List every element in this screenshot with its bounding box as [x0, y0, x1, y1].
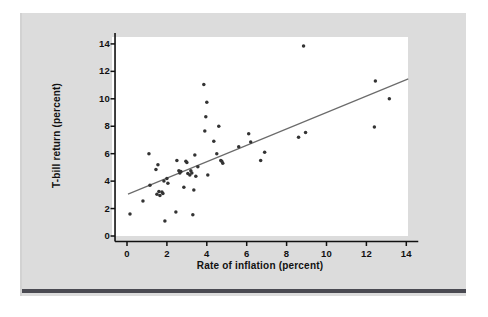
data-point: [163, 219, 167, 223]
data-point: [249, 140, 253, 144]
axis-ticks: [111, 44, 407, 246]
data-point: [190, 171, 194, 175]
y-tick-label: 0: [66, 230, 110, 241]
data-point: [179, 170, 183, 174]
y-tick-label: 6: [66, 148, 110, 159]
data-point: [304, 131, 308, 135]
y-tick-label: 12: [66, 65, 110, 76]
data-point: [221, 162, 225, 166]
data-point: [215, 152, 219, 156]
y-tick-label: 4: [66, 175, 110, 186]
y-tick-label: 8: [66, 120, 110, 131]
data-point: [205, 100, 209, 104]
data-points: [128, 44, 391, 222]
data-point: [247, 132, 251, 136]
x-tick-label: 14: [386, 248, 426, 259]
y-tick-label: 14: [66, 38, 110, 49]
x-tick-label: 6: [227, 248, 267, 259]
data-point: [212, 140, 216, 144]
data-point: [206, 173, 210, 177]
data-point: [191, 213, 195, 217]
data-point: [297, 135, 301, 139]
data-point: [302, 44, 306, 48]
data-point: [373, 125, 377, 128]
x-tick-label: 8: [267, 248, 307, 259]
data-point: [161, 192, 165, 196]
data-point: [156, 163, 160, 167]
data-point: [158, 194, 162, 198]
data-point: [204, 115, 208, 119]
data-point: [165, 177, 169, 181]
data-point: [141, 199, 145, 203]
data-point: [194, 175, 198, 179]
y-tick-label: 10: [66, 93, 110, 104]
x-tick-label: 12: [346, 248, 386, 259]
data-point: [192, 188, 196, 192]
y-tick-label: 2: [66, 203, 110, 214]
regression-line: [128, 79, 408, 194]
data-point: [128, 212, 132, 216]
data-point: [185, 161, 189, 165]
data-point: [182, 186, 186, 190]
data-point: [203, 129, 207, 133]
data-point: [217, 124, 221, 128]
data-point: [237, 145, 241, 149]
x-tick-label: 4: [187, 248, 227, 259]
y-axis-title: T-bill return (percent): [51, 56, 62, 216]
x-axis-title: Rate of inflation (percent): [112, 260, 408, 271]
data-point: [259, 159, 263, 163]
x-tick-label: 10: [307, 248, 347, 259]
data-point: [263, 151, 267, 155]
data-point: [154, 168, 158, 172]
data-point: [162, 179, 166, 183]
data-point: [388, 97, 392, 101]
data-point: [175, 159, 179, 163]
data-point: [202, 83, 206, 87]
data-point: [174, 210, 178, 214]
data-point: [166, 181, 170, 185]
data-point: [374, 79, 378, 83]
data-point: [148, 183, 152, 187]
x-tick-label: 2: [147, 248, 187, 259]
data-point: [196, 165, 200, 169]
figure-root: 02468101214 02468101214 Rate of inflatio…: [0, 0, 488, 317]
data-point: [147, 152, 151, 156]
data-point: [193, 153, 197, 157]
x-tick-label: 0: [107, 248, 147, 259]
data-point: [157, 190, 161, 194]
